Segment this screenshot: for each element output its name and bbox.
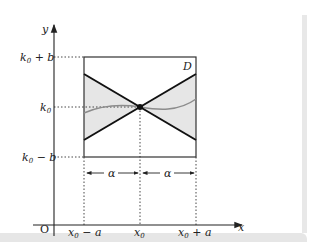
dotted-guides [54, 57, 196, 225]
region-label: D [182, 60, 192, 73]
interval-label-left: α [108, 167, 116, 180]
y-tick-k0-plus-b: k0 + b [20, 51, 54, 65]
y-tick-k0-minus-b: k0 − b [22, 151, 56, 165]
interval-label-right: α [164, 167, 172, 180]
shaded-region [140, 74, 196, 140]
center-point [137, 104, 143, 110]
x-tick-x0-minus-a: x0 − a [68, 226, 101, 240]
x-tick-x0: x0 [134, 226, 145, 240]
diagram-canvas: α α D y x O k0 + b k0 k0 − b x0 − a x0 x… [0, 0, 326, 242]
x-tick-x0-plus-a: x0 + a [178, 226, 211, 240]
origin-label: O [40, 223, 49, 236]
y-tick-k0: k0 [40, 101, 52, 115]
y-axis-label: y [41, 23, 49, 36]
x-axis-label: x [238, 221, 245, 234]
